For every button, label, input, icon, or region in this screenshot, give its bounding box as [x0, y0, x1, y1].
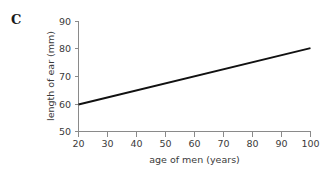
- y-tick-label-70: 70: [59, 71, 71, 82]
- y-tick-label-50: 50: [59, 126, 71, 137]
- y-tick-label-90: 90: [59, 16, 71, 27]
- x-axis-title: age of men (years): [149, 154, 240, 165]
- x-tick-label-70: 70: [217, 138, 229, 149]
- x-tick-label-60: 60: [188, 138, 200, 149]
- data-series-line: [79, 48, 311, 104]
- x-tick-label-30: 30: [101, 138, 113, 149]
- x-tick-label-80: 80: [246, 138, 258, 149]
- x-tick-label-20: 20: [72, 138, 84, 149]
- x-tick-label-90: 90: [275, 138, 287, 149]
- x-tick-label-100: 100: [301, 138, 319, 149]
- y-axis-title: length of ear (mm): [45, 31, 56, 121]
- x-tick-label-50: 50: [159, 138, 171, 149]
- line-chart: 90 80 70 60 50 20 30 40 50 60 70 80 90 1…: [0, 0, 331, 172]
- y-tick-label-60: 60: [59, 99, 71, 110]
- y-tick-label-80: 80: [59, 43, 71, 54]
- x-tick-label-40: 40: [130, 138, 142, 149]
- figure-panel-c: C 90 80 70 60 50 20 30 40 50 60 70: [0, 0, 331, 172]
